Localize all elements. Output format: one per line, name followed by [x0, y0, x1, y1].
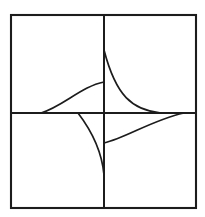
geometric-figure [0, 0, 205, 217]
figure-background [0, 0, 205, 217]
figure-container [0, 0, 205, 217]
